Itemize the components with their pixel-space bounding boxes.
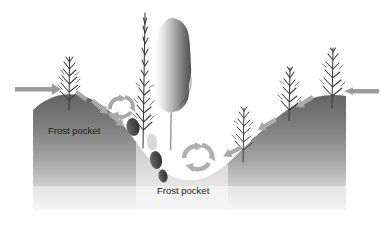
diagram-canvas: Frost pocket Frost pocket [0, 0, 381, 227]
wind-arrow-left-shaft [15, 87, 53, 91]
frost-pocket-label-left: Frost pocket [48, 125, 101, 136]
wind-arrow-right-shaft [352, 89, 379, 93]
frost-pocket-diagram: Frost pocket Frost pocket [0, 0, 381, 227]
frost-pocket-label-bottom: Frost pocket [157, 185, 210, 196]
